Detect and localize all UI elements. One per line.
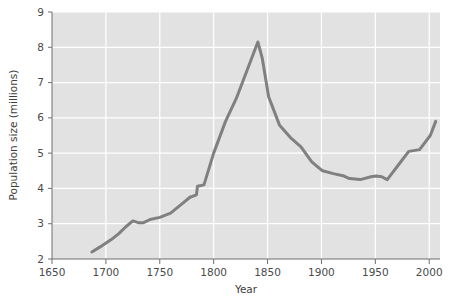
y-axis-title: Population size (millions) bbox=[7, 70, 19, 201]
x-tick-label: 1850 bbox=[254, 266, 281, 278]
x-tick-label: 1950 bbox=[362, 266, 389, 278]
y-tick-label: 2 bbox=[37, 253, 44, 265]
x-tick-label: 1750 bbox=[146, 266, 173, 278]
y-tick-label: 8 bbox=[37, 41, 44, 53]
x-tick-label: 1800 bbox=[200, 266, 227, 278]
y-axis-ticks bbox=[48, 12, 52, 259]
chart-figure: 23456789 1650170017501800185019001950200… bbox=[0, 0, 464, 308]
y-tick-label: 6 bbox=[37, 111, 44, 123]
x-tick-label: 1900 bbox=[308, 266, 335, 278]
y-tick-label: 9 bbox=[37, 6, 44, 18]
x-tick-label: 1700 bbox=[93, 266, 120, 278]
y-tick-label: 3 bbox=[37, 217, 44, 229]
x-tick-label: 2000 bbox=[416, 266, 443, 278]
x-axis-ticks bbox=[52, 259, 429, 264]
x-axis-title: Year bbox=[234, 283, 258, 295]
y-tick-label: 5 bbox=[37, 147, 44, 159]
y-axis-tick-labels: 23456789 bbox=[37, 6, 44, 265]
x-axis-tick-labels: 16501700175018001850190019502000 bbox=[39, 266, 443, 278]
y-tick-label: 7 bbox=[37, 76, 44, 88]
x-tick-label: 1650 bbox=[39, 266, 66, 278]
population-line-chart: 23456789 1650170017501800185019001950200… bbox=[0, 0, 464, 308]
plot-area-background bbox=[52, 12, 440, 259]
y-tick-label: 4 bbox=[37, 182, 44, 194]
